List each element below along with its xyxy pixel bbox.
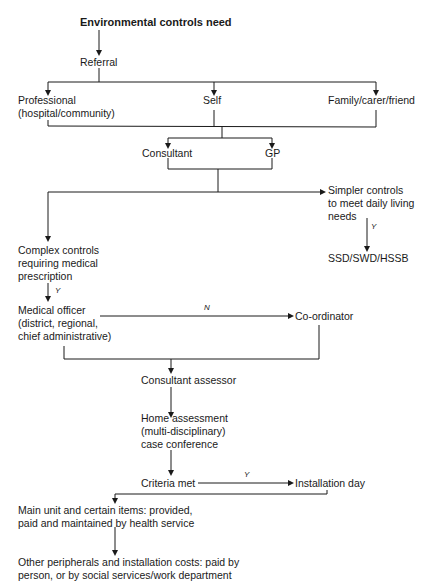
node-gp: GP — [265, 147, 280, 160]
node-ssd-swd-hssb: SSD/SWD/HSSB — [328, 252, 409, 265]
node-criteria-met: Criteria met — [141, 477, 195, 490]
node-co-ordinator: Co-ordinator — [295, 310, 353, 323]
node-installation-day: Installation day — [295, 477, 365, 490]
edge-label-criteria-yes: Y — [244, 470, 249, 479]
edge-label-simpler-yes: Y — [371, 222, 376, 231]
node-self: Self — [203, 94, 221, 107]
node-referral: Referral — [80, 56, 117, 69]
node-medical-officer: Medical officer (district, regional, chi… — [18, 304, 111, 343]
node-complex-controls: Complex controls requiring medical presc… — [18, 244, 99, 283]
node-other-peripherals: Other peripherals and installation costs… — [18, 556, 239, 582]
node-professional: Professional (hospital/community) — [18, 94, 115, 120]
node-home-assessment: Home assessment (multi-disciplinary) cas… — [141, 412, 228, 451]
node-simpler-controls: Simpler controls to meet daily living ne… — [328, 184, 414, 223]
edge-label-complex-yes: Y — [55, 286, 60, 295]
node-main-unit: Main unit and certain items: provided, p… — [18, 504, 194, 530]
node-family-carer-friend: Family/carer/friend — [328, 94, 415, 107]
edge-label-medical-no: N — [204, 303, 210, 312]
node-consultant-assessor: Consultant assessor — [141, 374, 236, 387]
node-consultant: Consultant — [142, 147, 192, 160]
title-environmental-controls-need: Environmental controls need — [80, 16, 232, 29]
